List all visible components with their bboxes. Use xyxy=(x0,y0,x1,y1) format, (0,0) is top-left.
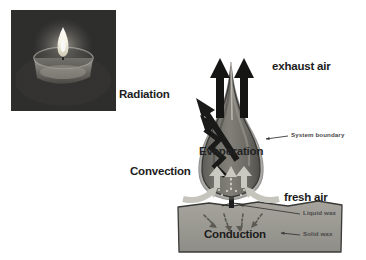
label-solid-wax: Solid wax xyxy=(303,231,332,237)
system-boundary-leader xyxy=(266,136,288,139)
label-exhaust-air: exhaust air xyxy=(272,61,331,73)
label-liquid-wax: Liquid wax xyxy=(303,210,336,216)
label-fresh-air: fresh air xyxy=(284,192,328,204)
fresh-air-arrow-right xyxy=(244,186,279,200)
label-convection: Convection xyxy=(130,166,191,178)
flame-plume xyxy=(231,62,232,120)
candle-schematic-diagram xyxy=(0,0,366,260)
label-conduction: Conduction xyxy=(204,229,266,241)
label-evaporation: Evaporation xyxy=(199,146,263,158)
label-system-boundary: System boundary xyxy=(291,132,344,138)
label-radiation: Radiation xyxy=(119,89,170,101)
candle-heat-transfer-figure: exhaust air Radiation Convection Evapora… xyxy=(0,0,366,260)
fresh-air-arrow-left xyxy=(183,186,218,200)
